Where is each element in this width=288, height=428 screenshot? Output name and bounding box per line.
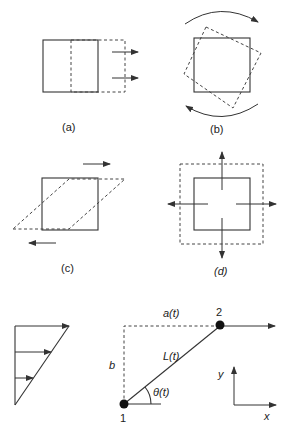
panel-b-rotation: (b)	[184, 11, 261, 135]
point-1-label: 1	[120, 412, 126, 424]
clockwise-arrow-icon	[186, 104, 258, 117]
a-t-label: a(t)	[163, 307, 180, 319]
point-2-label: 2	[216, 306, 222, 318]
panel-a-label: (a)	[62, 121, 75, 133]
point-1-dot	[120, 400, 129, 409]
L-t-label: L(t)	[163, 350, 180, 362]
panel-d-label: (d)	[214, 265, 228, 277]
point-2-dot	[216, 321, 225, 330]
segment-L	[124, 326, 220, 404]
angle-arc	[145, 387, 151, 404]
panel-b-label: (b)	[210, 123, 223, 135]
clockwise-arrow-icon	[185, 11, 258, 24]
theta-t-label: θ(t)	[153, 386, 170, 398]
velocity-profile-line	[15, 326, 69, 405]
rotated-square	[184, 27, 261, 108]
shear-flow-profile	[15, 326, 69, 405]
panel-c-label: (c)	[61, 262, 74, 274]
panel-c-shear: (c)	[13, 164, 125, 274]
figure-canvas: (a) (b) (c) (d)	[0, 0, 288, 428]
sheared-parallelogram	[13, 179, 125, 229]
b-label: b	[109, 359, 115, 371]
panel-a-translation: (a)	[43, 40, 138, 133]
original-square	[194, 38, 250, 92]
kinematics-diagram: 1 2 a(t) b L(t) θ(t) y x	[109, 306, 276, 424]
y-axis-label: y	[217, 368, 225, 380]
x-axis-label: x	[263, 410, 270, 422]
original-square	[42, 178, 98, 230]
panel-d-dilation: (d)	[168, 152, 276, 277]
